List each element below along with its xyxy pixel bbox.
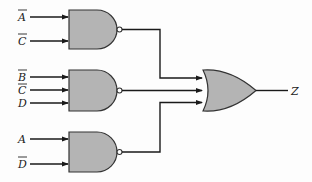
or-gate (203, 70, 256, 111)
nand-gate-body (69, 132, 117, 172)
input-label-a: A (17, 133, 26, 146)
input-label-d-bar: D (17, 158, 27, 171)
inversion-bubble (117, 27, 122, 32)
inversion-bubble (117, 150, 122, 155)
nand-gate-body (69, 70, 117, 111)
circuit-svg: A C B C D A D (0, 0, 312, 182)
wire-nand3-to-or (122, 103, 202, 153)
output-label-z: Z (290, 85, 299, 98)
nand-gate-2 (69, 70, 122, 111)
input-label-c-bar: C (18, 84, 27, 97)
input-label-a-bar: A (17, 11, 26, 24)
nand-gate-3 (69, 132, 122, 172)
nand-gate-body (69, 10, 117, 49)
input-label-c-bar: C (18, 35, 27, 48)
input-label-b-bar: B (17, 71, 26, 84)
gate3-inputs: A D (17, 133, 68, 171)
nand-gate-1 (69, 10, 122, 49)
inversion-bubble (117, 88, 122, 93)
or-gate-body (203, 70, 256, 111)
gate2-inputs: B C D (17, 70, 68, 110)
wire-nand1-to-or (122, 30, 202, 79)
input-label-d: D (17, 97, 27, 110)
logic-circuit-diagram: A C B C D A D (0, 0, 312, 182)
gate1-inputs: A C (17, 10, 68, 48)
